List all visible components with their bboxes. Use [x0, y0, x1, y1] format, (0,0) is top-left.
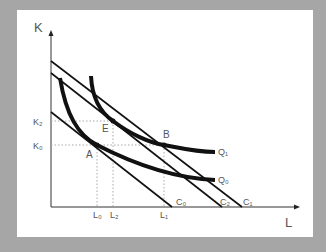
- label-b: B: [163, 129, 170, 140]
- x-axis-label: L: [285, 215, 292, 230]
- point-e: [111, 119, 116, 124]
- label-c2: C₂: [220, 197, 230, 207]
- isoquant-q1: [91, 76, 215, 152]
- label-q0: Q₀: [218, 175, 229, 185]
- label-c0: C₀: [176, 197, 186, 207]
- tick-l1: L₁: [160, 210, 168, 220]
- label-q1: Q₁: [218, 147, 228, 157]
- isocost-c2: [51, 73, 222, 207]
- tick-k0: K₀: [33, 141, 43, 151]
- axes: [49, 30, 301, 210]
- x-axis-arrow-icon: [294, 205, 300, 210]
- isocost-lines: [51, 61, 242, 207]
- point-b: [162, 143, 167, 148]
- tick-l0: L₀: [93, 210, 102, 220]
- y-axis-arrow-icon: [49, 30, 54, 36]
- isoquant-q0: [60, 78, 215, 180]
- y-axis-label: K: [34, 20, 43, 35]
- tick-l2: L₂: [110, 210, 119, 220]
- label-e: E: [102, 123, 109, 134]
- tick-k2: K₂: [33, 117, 43, 127]
- isoquant-isocost-diagram: K L K₂ K₀ L₀ L₂ L₁ A E B C₀ C₂ C₁ Q₁ Q₀: [0, 0, 326, 252]
- point-a: [95, 143, 100, 148]
- label-c1: C₁: [243, 197, 253, 207]
- isocost-c0: [51, 112, 172, 207]
- label-a: A: [86, 149, 93, 160]
